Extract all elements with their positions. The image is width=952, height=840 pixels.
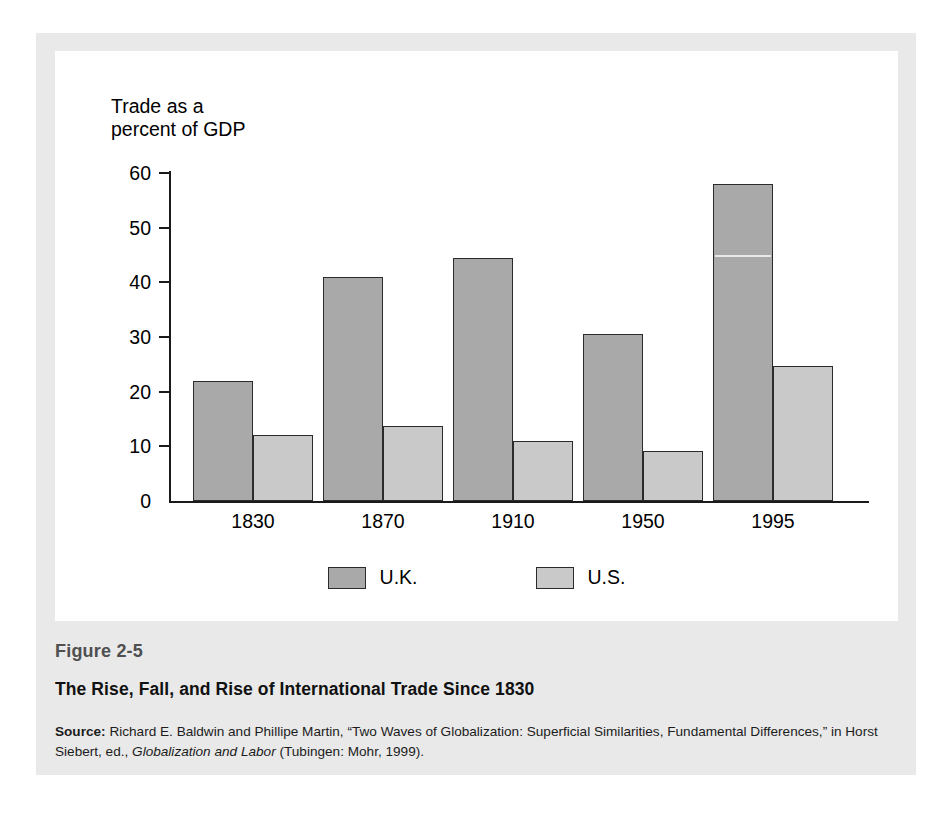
- y-tick-mark-40: [159, 281, 170, 283]
- figure-title: The Rise, Fall, and Rise of Internationa…: [55, 679, 898, 700]
- x-tick-label-1950: 1950: [621, 510, 664, 533]
- x-tick-label-1910: 1910: [491, 510, 534, 533]
- y-tick-mark-10: [159, 445, 170, 447]
- y-tick-label-20: 20: [111, 381, 151, 404]
- legend-swatch-uk-icon: [328, 567, 366, 589]
- source-italic-title: Globalization and Labor: [132, 744, 276, 759]
- bar-uk-1910: [453, 258, 513, 501]
- figure-source: Source: Richard E. Baldwin and Phillipe …: [55, 722, 898, 762]
- y-tick-label-60: 60: [111, 162, 151, 185]
- legend-item-uk: U.K.: [328, 566, 418, 589]
- figure-caption: Figure 2-5 The Rise, Fall, and Rise of I…: [55, 641, 898, 762]
- scan-line-artifact: [715, 255, 771, 257]
- source-label: Source:: [55, 724, 106, 739]
- bar-us-1910: [513, 441, 573, 501]
- bar-us-1950: [643, 451, 703, 501]
- y-tick-label-40: 40: [111, 271, 151, 294]
- plot-area: 60 50 40 30 20 10 0 1830 1870 19: [55, 51, 898, 621]
- chart-panel: Trade as a percent of GDP 60 50 40 30 20…: [55, 51, 898, 621]
- bar-uk-1870: [323, 277, 383, 501]
- source-text-part-2: (Tubingen: Mohr, 1999).: [276, 744, 424, 759]
- y-tick-label-50: 50: [111, 217, 151, 240]
- x-tick-label-1830: 1830: [231, 510, 274, 533]
- figure-card: Trade as a percent of GDP 60 50 40 30 20…: [36, 33, 916, 775]
- y-tick-mark-30: [159, 336, 170, 338]
- legend-item-us: U.S.: [536, 566, 626, 589]
- bar-uk-1950: [583, 334, 643, 501]
- y-tick-mark-50: [159, 227, 170, 229]
- y-tick-label-30: 30: [111, 326, 151, 349]
- x-tick-label-1870: 1870: [361, 510, 404, 533]
- bar-us-1995: [773, 366, 833, 501]
- y-tick-label-10: 10: [111, 435, 151, 458]
- bar-us-1870: [383, 426, 443, 501]
- legend-label-us: U.S.: [588, 566, 626, 589]
- legend-label-uk: U.K.: [380, 566, 418, 589]
- y-tick-mark-20: [159, 391, 170, 393]
- x-axis-line: [169, 501, 869, 503]
- x-tick-label-1995: 1995: [751, 510, 794, 533]
- y-tick-mark-60: [159, 172, 170, 174]
- chart-legend: U.K. U.S.: [55, 566, 898, 589]
- y-tick-label-0: 0: [111, 490, 151, 513]
- bar-uk-1830: [193, 381, 253, 501]
- legend-swatch-us-icon: [536, 567, 574, 589]
- bar-us-1830: [253, 435, 313, 501]
- bar-uk-1995: [713, 184, 773, 501]
- figure-number: Figure 2-5: [55, 641, 898, 662]
